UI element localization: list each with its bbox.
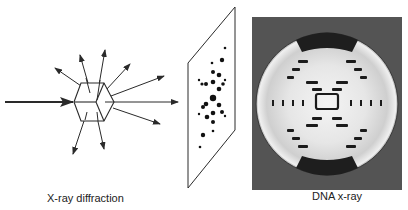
dna-xray-photo [252,17,402,190]
caption-dna-xray: DNA x-ray [312,190,362,202]
detector-plate [188,7,235,188]
xray-diffraction-diagram [0,0,408,210]
caption-xray-diffraction: X-ray diffraction [47,192,124,204]
